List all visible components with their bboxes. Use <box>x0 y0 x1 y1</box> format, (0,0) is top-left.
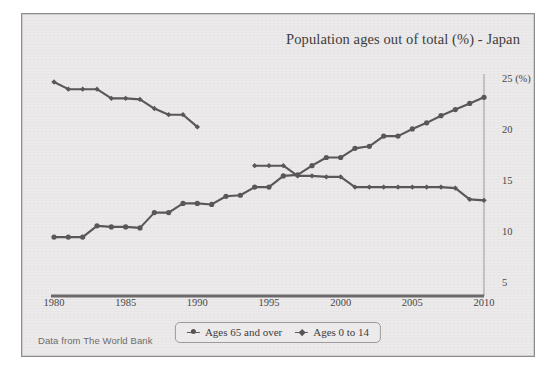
legend-item-ages-0-to-14[interactable]: Ages 0 to 14 <box>295 326 369 338</box>
data-point-marker <box>438 113 443 118</box>
data-point-marker <box>80 234 85 239</box>
source-note: Data from The World Bank <box>38 335 153 346</box>
x-tick-label: 2010 <box>474 297 495 308</box>
data-point-marker <box>252 163 257 168</box>
diamond-marker-icon <box>295 328 308 337</box>
line-chart-canvas <box>44 62 492 302</box>
data-point-marker <box>281 173 286 178</box>
data-point-marker <box>395 184 400 189</box>
data-point-marker <box>195 201 200 206</box>
data-point-marker <box>166 210 171 215</box>
figure-frame: Population ages out of total (%) - Japan… <box>21 13 535 357</box>
series-line <box>255 166 484 201</box>
data-point-marker <box>66 234 71 239</box>
data-point-marker <box>424 184 429 189</box>
data-point-marker <box>252 185 257 190</box>
data-point-marker <box>438 184 443 189</box>
y-tick-label: 25 (%) <box>502 73 531 84</box>
data-point-marker <box>266 163 271 168</box>
x-tick-label: 2005 <box>402 297 423 308</box>
data-point-marker <box>481 95 486 100</box>
y-tick-label: 20 <box>502 124 513 135</box>
figure-root: Population ages out of total (%) - Japan… <box>0 0 550 370</box>
x-axis: 1980198519901995200020052010 <box>22 297 534 317</box>
data-point-marker <box>467 101 472 106</box>
legend-label: Ages 0 to 14 <box>313 326 369 338</box>
data-point-marker <box>123 96 128 101</box>
y-tick-label: 10 <box>502 226 513 237</box>
legend-item-ages-65-and-over[interactable]: Ages 65 and over <box>187 326 282 338</box>
data-point-marker <box>410 126 415 131</box>
data-point-marker <box>381 134 386 139</box>
data-point-marker <box>123 224 128 229</box>
x-tick-label: 2000 <box>330 297 351 308</box>
data-point-marker <box>453 107 458 112</box>
circle-marker-icon <box>187 328 200 337</box>
data-point-marker <box>324 174 329 179</box>
data-point-marker <box>238 193 243 198</box>
data-point-marker <box>424 120 429 125</box>
data-point-marker <box>180 201 185 206</box>
data-point-marker <box>367 144 372 149</box>
data-point-marker <box>94 223 99 228</box>
y-tick-label: 5 <box>502 277 507 288</box>
plot-area <box>44 62 492 302</box>
data-point-marker <box>395 134 400 139</box>
x-tick-label: 1995 <box>259 297 280 308</box>
data-point-marker <box>309 173 314 178</box>
data-point-marker <box>367 184 372 189</box>
data-point-marker <box>338 155 343 160</box>
data-point-marker <box>352 146 357 151</box>
data-point-marker <box>266 185 271 190</box>
legend-label: Ages 65 and over <box>205 326 282 338</box>
data-point-marker <box>152 210 157 215</box>
data-point-marker <box>309 163 314 168</box>
series-line <box>54 82 197 127</box>
x-tick-label: 1985 <box>115 297 136 308</box>
data-point-marker <box>109 224 114 229</box>
data-point-marker <box>410 184 415 189</box>
data-point-marker <box>209 202 214 207</box>
x-tick-label: 1980 <box>44 297 65 308</box>
data-point-marker <box>481 198 486 203</box>
data-point-marker <box>51 234 56 239</box>
x-tick-label: 1990 <box>187 297 208 308</box>
chart-title: Population ages out of total (%) - Japan <box>286 31 520 48</box>
data-point-marker <box>137 225 142 230</box>
chart-legend: Ages 65 and over Ages 0 to 14 <box>175 322 381 343</box>
y-tick-label: 15 <box>502 175 513 186</box>
data-point-marker <box>80 86 85 91</box>
data-point-marker <box>381 184 386 189</box>
data-point-marker <box>223 194 228 199</box>
data-point-marker <box>324 155 329 160</box>
